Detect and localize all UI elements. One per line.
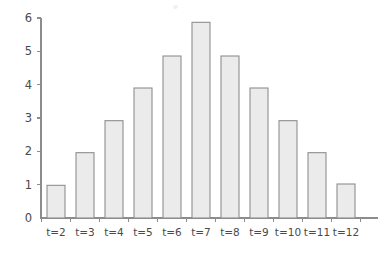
x-tick-label: t=3: [75, 226, 95, 238]
y-tick-label: 6: [25, 11, 32, 25]
y-axis: 0123456: [25, 11, 41, 225]
bar: [221, 56, 239, 218]
y-tick-label: 5: [25, 44, 32, 58]
bars-group: [47, 22, 355, 218]
x-tick-labels: t=2t=3t=4t=5t=6t=7t=8t=9t=10t=11t=12: [46, 226, 359, 238]
chart-canvas: 0123456 t=2t=3t=4t=5t=6t=7t=8t=9t=10t=11…: [0, 0, 382, 263]
bar: [134, 88, 152, 218]
x-tick-label: t=5: [133, 226, 153, 238]
bar: [163, 56, 181, 218]
bar: [250, 88, 268, 218]
bar: [76, 153, 94, 218]
x-tick-label: t=6: [162, 226, 182, 238]
x-tick-label: t=4: [104, 226, 124, 238]
bar-chart: 0123456 t=2t=3t=4t=5t=6t=7t=8t=9t=10t=11…: [0, 0, 382, 263]
bar: [192, 22, 210, 218]
bar: [105, 121, 123, 218]
bar: [47, 185, 65, 218]
bar: [308, 153, 326, 218]
y-tick-label: 2: [25, 144, 32, 158]
bar: [279, 121, 297, 218]
y-tick-label: 0: [25, 211, 32, 225]
y-tick-label: 3: [25, 111, 32, 125]
x-tick-label: t=9: [249, 226, 269, 238]
x-tick-label: t=2: [46, 226, 66, 238]
x-tick-label: t=7: [191, 226, 211, 238]
bar: [337, 184, 355, 218]
x-tick-label: t=11: [304, 226, 330, 238]
y-tick-label: 1: [25, 178, 32, 192]
x-tick-label: t=12: [333, 226, 359, 238]
y-tick-label: 4: [25, 78, 32, 92]
x-axis: [41, 218, 378, 222]
x-tick-label: t=10: [275, 226, 301, 238]
x-tick-label: t=8: [220, 226, 240, 238]
